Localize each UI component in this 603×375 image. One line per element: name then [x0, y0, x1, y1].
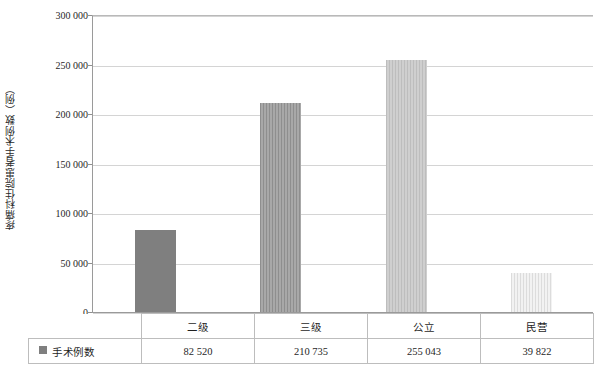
bar-二级: [135, 230, 176, 312]
bar-公立: [386, 60, 427, 312]
gridline-5: [93, 66, 593, 67]
gridline-6: [93, 16, 593, 17]
category-cell-3: 民营: [481, 314, 594, 339]
category-cell-0: 二级: [142, 314, 255, 339]
bar-民营: [511, 273, 552, 312]
legend-label: 手术例数: [52, 344, 94, 359]
value-cell-2: 255 043: [368, 339, 481, 364]
table-corner-blank: [29, 314, 142, 339]
legend-entry: 手术例数: [29, 339, 142, 364]
y-tick-label-6: 300 000: [26, 10, 88, 21]
gridline-4: [93, 115, 593, 116]
y-tick-label-1: 50 000: [26, 257, 88, 268]
bar-三级: [260, 103, 301, 312]
category-cell-1: 三级: [255, 314, 368, 339]
value-cell-0: 82 520: [142, 339, 255, 364]
y-tick-label-5: 250 000: [26, 59, 88, 70]
gridline-2: [93, 214, 593, 215]
plot-area: [92, 15, 593, 312]
bar-chart-figure: 疼痛科住院患者手术例数（例） 050 000100 000150 000200 …: [0, 0, 603, 375]
table-row-categories: 二级 三级 公立 民营: [29, 314, 594, 339]
value-cell-1: 210 735: [255, 339, 368, 364]
y-axis-title-text: 疼痛科住院患者手术例数（例）: [6, 83, 16, 230]
value-cell-3: 39 822: [481, 339, 594, 364]
y-tick-label-4: 200 000: [26, 109, 88, 120]
category-cell-2: 公立: [368, 314, 481, 339]
y-axis-title: 疼痛科住院患者手术例数（例）: [0, 0, 22, 312]
y-tick-label-3: 150 000: [26, 158, 88, 169]
data-table: 二级 三级 公立 民营 手术例数 82 520 210 735 255 043 …: [28, 313, 594, 364]
y-tick-label-2: 100 000: [26, 208, 88, 219]
table-row-values: 手术例数 82 520 210 735 255 043 39 822: [29, 339, 594, 364]
legend-swatch-icon: [39, 346, 47, 354]
gridline-3: [93, 165, 593, 166]
